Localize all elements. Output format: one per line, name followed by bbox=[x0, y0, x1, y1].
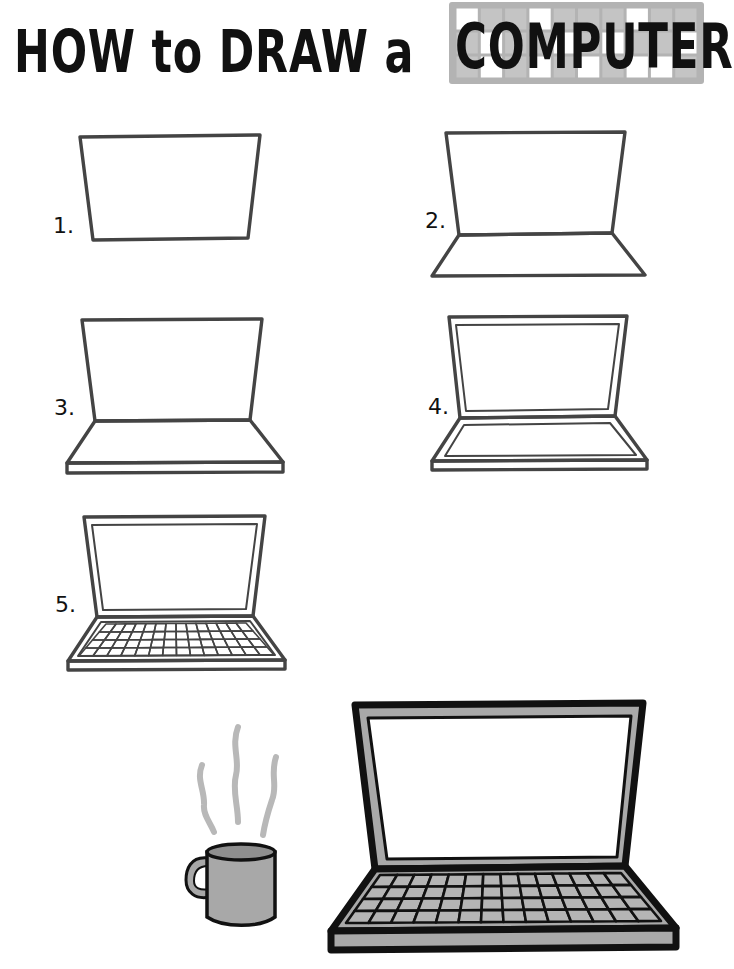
step-3-drawing bbox=[67, 319, 283, 473]
step-5-drawing bbox=[68, 516, 285, 670]
coffee-mug bbox=[186, 727, 276, 925]
step-1-drawing bbox=[80, 135, 260, 240]
steam-lines bbox=[200, 727, 276, 835]
step-2-drawing bbox=[432, 132, 645, 276]
step-4-drawing bbox=[432, 316, 647, 470]
final-laptop bbox=[331, 703, 676, 950]
